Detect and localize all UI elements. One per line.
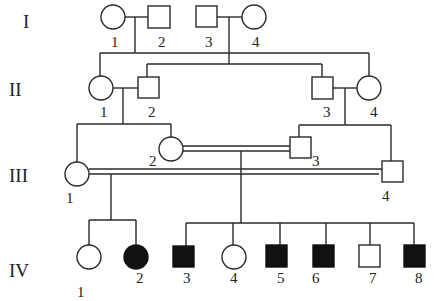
individual-IV-7: 7	[359, 245, 380, 286]
individual-III-4: 4	[382, 161, 403, 204]
male-affected-icon	[313, 245, 334, 267]
individual-number: 7	[369, 270, 377, 286]
individual-number: 8	[415, 270, 423, 286]
individual-number: 4	[252, 34, 260, 50]
individual-number: 4	[370, 104, 378, 120]
female-unaffected-icon	[159, 137, 183, 161]
male-unaffected-icon	[148, 6, 170, 28]
individual-I-4: 4	[242, 5, 266, 50]
individual-number: 4	[230, 270, 238, 286]
female-unaffected-icon	[357, 76, 381, 100]
individual-II-3: 3	[312, 77, 333, 120]
pedigree-chart: I II III IV	[0, 0, 434, 301]
female-affected-icon	[124, 245, 148, 269]
generation-label-IV: IV	[9, 260, 29, 281]
male-affected-icon	[404, 245, 425, 267]
male-affected-icon	[173, 246, 194, 267]
individual-number: 2	[149, 153, 157, 169]
individual-I-3: 3	[196, 6, 217, 50]
individual-number: 5	[277, 270, 285, 286]
male-unaffected-icon	[138, 77, 159, 98]
individual-III-1: 1	[65, 162, 89, 206]
individual-IV-5: 5	[266, 245, 287, 286]
individual-IV-3: 3	[173, 246, 194, 286]
female-unaffected-icon	[77, 245, 101, 269]
individual-II-2: 2	[138, 77, 159, 120]
individual-I-2: 2	[148, 6, 170, 50]
female-unaffected-icon	[89, 76, 113, 100]
male-unaffected-icon	[196, 6, 217, 27]
individual-number: 1	[77, 284, 85, 300]
generation-label-III: III	[9, 165, 28, 186]
individual-IV-8: 8	[404, 245, 425, 286]
individual-number: 1	[100, 104, 108, 120]
individual-III-2: 2	[149, 137, 183, 169]
individual-number: 3	[323, 104, 331, 120]
individual-IV-4: 4	[222, 245, 246, 286]
individual-IV-6: 6	[312, 245, 334, 286]
individual-IV-1: 1	[77, 245, 101, 300]
individual-number: 3	[205, 34, 213, 50]
individual-number: 2	[158, 34, 166, 50]
individual-III-3: 3	[290, 137, 320, 169]
individual-I-1: 1	[101, 5, 125, 50]
individual-II-4: 4	[357, 76, 381, 120]
individual-number: 4	[382, 188, 390, 204]
individual-number: 1	[66, 190, 74, 206]
male-unaffected-icon	[312, 77, 333, 99]
individual-number: 3	[183, 270, 191, 286]
individual-number: 3	[312, 153, 320, 169]
male-affected-icon	[266, 245, 287, 267]
individual-IV-2: 2	[124, 245, 148, 286]
individual-number: 6	[312, 270, 320, 286]
female-unaffected-icon	[65, 162, 89, 186]
male-unaffected-icon	[290, 137, 311, 158]
mating-lines-gen-I	[100, 17, 369, 77]
female-unaffected-icon	[101, 5, 125, 29]
male-unaffected-icon	[359, 245, 380, 267]
male-unaffected-icon	[382, 161, 403, 182]
individual-number: 2	[136, 270, 144, 286]
mating-lines-gen-II	[77, 88, 391, 163]
individual-number: 2	[148, 104, 156, 120]
individual-II-1: 1	[89, 76, 113, 120]
generation-label-I: I	[23, 11, 29, 32]
generation-label-II: II	[9, 79, 22, 100]
female-unaffected-icon	[242, 5, 266, 29]
mating-lines-gen-III	[89, 146, 414, 246]
female-unaffected-icon	[222, 245, 246, 269]
individual-number: 1	[111, 34, 119, 50]
